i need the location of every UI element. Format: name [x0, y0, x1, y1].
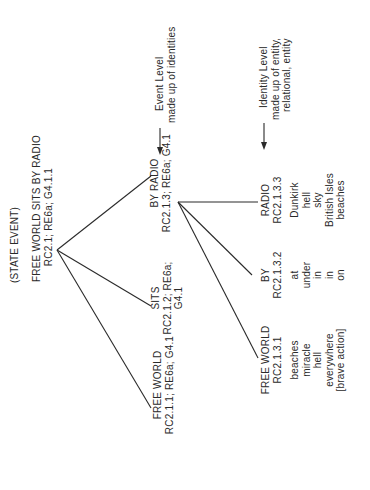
edge-byradio-by [178, 202, 252, 275]
identity-node-by: BY RC2.1.3.2 at under in in on [260, 245, 347, 305]
identity-words-radio: Dunkirk hell sky British Isles beaches [289, 168, 347, 232]
identity-node-radio: RADIO RC2.1.3.3 Dunkirk hell sky British… [260, 168, 347, 232]
root-node: FREE WORLD SITS BY RADIO RC2.1; RE6a; G4… [31, 152, 54, 282]
state-event-header: (STATE EVENT) [9, 200, 21, 290]
identity-words-freeworld: beaches miracle hell everywhere [brave a… [289, 320, 347, 400]
identity-level-arrowhead-icon [261, 142, 267, 150]
identity-words-by: at under in in on [289, 245, 347, 305]
edge-root-freeworld [57, 250, 151, 408]
root-label: FREE WORLD SITS BY RADIO [31, 152, 43, 282]
event-node-byradio: BY RADIO RC2.1.3; RE6a; G4.1 [149, 128, 172, 238]
event-node-freeworld: FREE WORLD RC2.1.1; RE6a; G4.1 [152, 330, 175, 440]
event-node-sits: SITS RC2.1.2; RE6a; G4.1 [150, 258, 185, 338]
edge-root-byradio [57, 176, 151, 250]
root-code: RC2.1; RE6a; G4.1.1 [43, 152, 55, 282]
identity-node-freeworld: FREE WORLD RC2.1.3.1 beaches miracle hel… [260, 320, 347, 400]
edge-byradio-freeworld [178, 202, 258, 358]
edge-root-sits [57, 250, 151, 306]
identity-level-annotation: Identity Level made up of entity, relati… [258, 10, 293, 120]
event-level-annotation: Event Level made up of identities [154, 13, 177, 123]
